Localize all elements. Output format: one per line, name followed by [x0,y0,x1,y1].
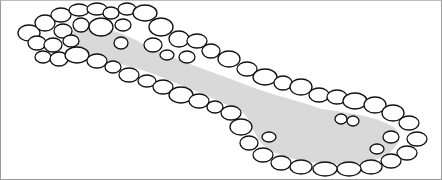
pond-illustration [1,1,441,179]
illustration-frame: Line drawing of a stone-edged garden pon… [0,0,442,180]
